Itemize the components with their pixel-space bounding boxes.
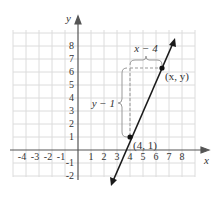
svg-text:-2: -2	[44, 151, 52, 162]
y-axis-label: y	[65, 12, 71, 24]
x-axis-arrow-icon	[201, 147, 209, 153]
horizontal-diff-label: x − 4	[133, 42, 158, 54]
svg-text:-4: -4	[18, 151, 26, 162]
svg-text:8: 8	[69, 40, 74, 51]
coordinate-plane: y x -4 -3 -2 -1 1 2 3 4 5 6 7 8 8 7 6 5 …	[0, 0, 219, 207]
vertical-brace-icon	[118, 68, 127, 137]
point-x-y-label: (x, y)	[165, 70, 189, 83]
point-4-1	[127, 134, 132, 139]
horizontal-brace-icon	[130, 56, 162, 65]
svg-text:-1: -1	[57, 151, 65, 162]
svg-text:7: 7	[69, 53, 74, 64]
point-4-1-label: (4, 1)	[133, 139, 157, 152]
svg-text:-3: -3	[31, 151, 39, 162]
svg-text:4: 4	[69, 92, 74, 103]
x-tick-labels: -4 -3 -2 -1 1 2 3 4 5 6 7 8	[18, 151, 185, 162]
svg-text:3: 3	[69, 105, 74, 116]
y-axis-arrow-icon	[75, 16, 81, 24]
svg-text:2: 2	[102, 151, 107, 162]
vertical-diff-label: y − 1	[91, 97, 115, 109]
svg-text:1: 1	[89, 151, 94, 162]
svg-text:4: 4	[128, 151, 133, 162]
x-axis-label: x	[203, 154, 209, 166]
svg-text:3: 3	[115, 151, 120, 162]
svg-text:-1: -1	[66, 157, 74, 168]
svg-text:8: 8	[180, 151, 185, 162]
svg-text:-2: -2	[66, 170, 74, 181]
svg-text:6: 6	[69, 66, 74, 77]
svg-text:5: 5	[69, 79, 74, 90]
svg-text:1: 1	[69, 131, 74, 142]
svg-text:6: 6	[154, 151, 159, 162]
svg-text:2: 2	[69, 118, 74, 129]
svg-text:5: 5	[141, 151, 146, 162]
svg-text:7: 7	[167, 151, 172, 162]
point-x-y	[159, 65, 164, 70]
